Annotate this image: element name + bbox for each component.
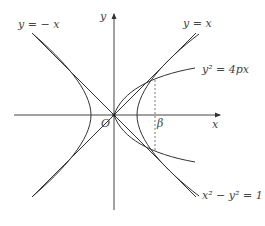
asymptote-neg-label: y = − x <box>17 18 60 31</box>
parabola-label: y² = 4px <box>201 63 250 76</box>
origin-label: O <box>101 117 110 130</box>
hyperbola-label: x² − y² = 1 <box>202 189 263 202</box>
hyperbola-parabola-diagram: y x O β y = − x y = x y² = 4px x² − y² =… <box>0 0 265 226</box>
beta-label: β <box>156 117 163 130</box>
x-axis-label: x <box>212 118 219 131</box>
y-axis-label: y <box>99 10 107 23</box>
origin-point <box>112 113 115 116</box>
asymptote-pos-label: y = x <box>182 17 212 30</box>
